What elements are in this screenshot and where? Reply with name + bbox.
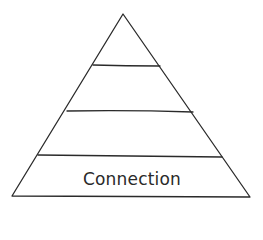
pyramid-level-label-connection: Connection <box>60 169 204 189</box>
divider-line-2 <box>67 111 193 112</box>
divider-line-1 <box>93 65 160 66</box>
divider-line-3 <box>38 155 222 157</box>
